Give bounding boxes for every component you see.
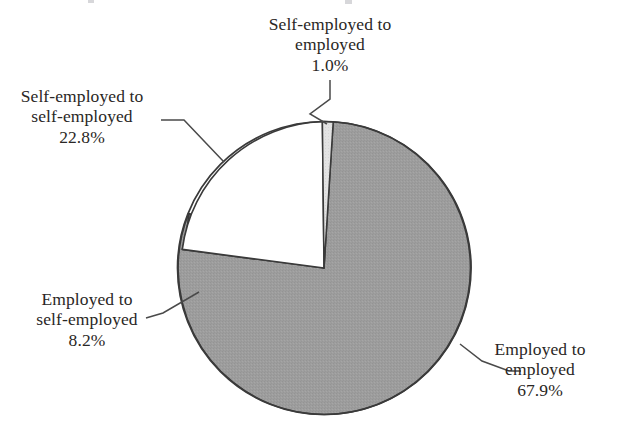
slice-label-self-employed-to-employed: Self-employed to employed 1.0% [256, 14, 404, 75]
leader-line-self-employed-to-self-employed [161, 120, 224, 162]
leader-line-self-employed-to-employed [310, 80, 330, 124]
slice-label-line1: Employed to [14, 289, 160, 309]
slice-label-value: 8.2% [14, 330, 160, 350]
slice-label-line2: self-employed [14, 309, 160, 329]
slice-label-line2: self-employed [6, 106, 158, 126]
slice-label-employed-to-self-employed: Employed to self-employed 8.2% [14, 289, 160, 350]
slice-label-line1: Employed to [466, 339, 614, 359]
slice-label-line2: employed [256, 34, 404, 54]
slice-label-employed-to-employed: Employed to employed 67.9% [466, 339, 614, 400]
slice-label-line1: Self-employed to [256, 14, 404, 34]
pie-slice-self-employed-to-self-employed [182, 122, 324, 269]
slice-label-value: 1.0% [256, 55, 404, 75]
slice-label-line1: Self-employed to [6, 86, 158, 106]
slice-label-self-employed-to-self-employed: Self-employed to self-employed 22.8% [6, 86, 158, 147]
slice-label-line2: employed [466, 359, 614, 379]
pie-chart-figure: Self-employed to employed 1.0% Self-empl… [0, 0, 621, 431]
slice-label-value: 22.8% [6, 127, 158, 147]
slice-label-value: 67.9% [466, 380, 614, 400]
